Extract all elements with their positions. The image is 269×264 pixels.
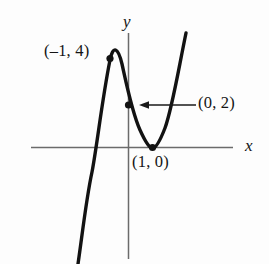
graph-canvas: [0, 0, 269, 264]
callout-arrow-icon: [139, 101, 196, 109]
y-axis-label: y: [123, 13, 131, 30]
point-marker-y-intercept: [125, 101, 132, 108]
y-intercept-point-label: (0, 2): [198, 95, 235, 112]
point-marker-local-max: [106, 55, 113, 62]
cubic-curve: [78, 33, 186, 264]
cubic-graph-figure: y x (–1, 4) (0, 2) (1, 0): [0, 0, 269, 264]
x-axis-label: x: [245, 137, 253, 154]
local-min-point-label: (1, 0): [132, 154, 169, 171]
local-max-point-label: (–1, 4): [44, 43, 89, 60]
point-marker-local-min: [149, 144, 156, 151]
